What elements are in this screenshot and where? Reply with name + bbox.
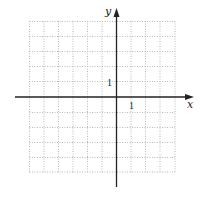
y-axis-label: y xyxy=(104,5,112,18)
y-axis-arrow-icon xyxy=(114,8,120,17)
x-axis-label: x xyxy=(187,98,194,111)
x-tick-label: 1 xyxy=(129,100,134,111)
x-axis xyxy=(15,94,194,100)
coordinate-plane: y x 1 1 xyxy=(0,0,204,197)
y-tick-label: 1 xyxy=(107,77,112,88)
